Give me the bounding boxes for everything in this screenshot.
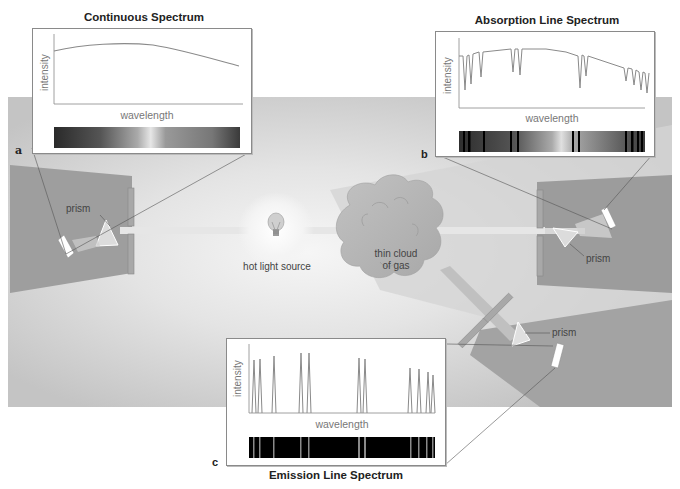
continuous-spectrum-band [54, 127, 240, 148]
spectrograph-a-housing [10, 165, 132, 293]
absorption-spectrum-plot [436, 32, 654, 156]
gas-cloud-label-line1: thin cloud [360, 248, 432, 260]
emission-spectrum-band [249, 437, 435, 458]
prism-label-c: prism [552, 327, 576, 339]
absorption-spectrum-band [459, 131, 645, 152]
prism-label-a: prism [66, 203, 90, 215]
panel-b-y-label: intensity [442, 57, 453, 94]
panel-c-y-label: intensity [232, 360, 243, 397]
continuous-spectrum-panel: intensity wavelength [32, 28, 252, 154]
emission-spectrum-plot [227, 339, 445, 465]
gas-cloud-label-line2: of gas [360, 260, 432, 272]
prism-label-b: prism [586, 253, 610, 265]
panel-b-title: Absorption Line Spectrum [432, 14, 662, 26]
panel-b-x-label: wavelength [459, 112, 645, 124]
panel-c-title: Emission Line Spectrum [226, 469, 446, 481]
panel-b-letter: b [421, 148, 428, 160]
light-beam [120, 227, 545, 234]
panel-a-title: Continuous Spectrum [34, 11, 254, 23]
panel-c-x-label: wavelength [249, 418, 435, 430]
panel-a-x-label: wavelength [54, 109, 240, 121]
panel-c-letter: c [212, 456, 218, 468]
panel-a-y-label: intensity [39, 54, 50, 91]
continuous-spectrum-plot [33, 29, 251, 153]
light-source-label: hot light source [240, 261, 314, 273]
panel-a-letter: a [15, 144, 22, 157]
spectra-diagram: Continuous Spectrum intensity wavelength… [0, 0, 680, 489]
emission-spectrum-panel: intensity wavelength [226, 338, 446, 466]
absorption-spectrum-panel: intensity wavelength [435, 31, 655, 157]
